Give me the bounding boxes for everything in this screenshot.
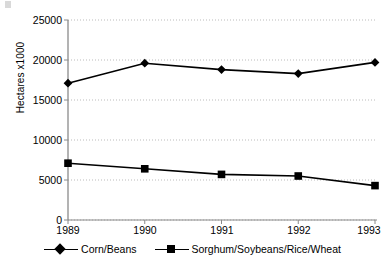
- legend-label: Corn/Beans: [81, 243, 136, 255]
- legend-item-sorghum-soybeans-rice-wheat[interactable]: Sorghum/Soybeans/Rice/Wheat: [155, 243, 341, 255]
- chart-legend: Corn/Beans Sorghum/Soybeans/Rice/Wheat: [0, 243, 385, 255]
- data-point-square: [141, 165, 149, 173]
- legend-item-corn-beans[interactable]: Corn/Beans: [44, 243, 136, 255]
- data-point-diamond: [217, 65, 226, 74]
- x-tick-label: 1991: [192, 224, 252, 236]
- data-point-diamond: [140, 59, 149, 68]
- data-point-diamond: [64, 79, 73, 88]
- line-chart: Hectares x1000 25000 20000 15000 10000 5…: [0, 0, 385, 262]
- x-tick-label: 1989: [38, 224, 98, 236]
- data-point-diamond: [294, 69, 303, 78]
- data-point-diamond: [371, 58, 380, 67]
- data-point-square: [294, 172, 302, 180]
- square-marker-icon: [155, 245, 189, 254]
- plot-area: [0, 0, 385, 262]
- x-tick-label: 1993: [339, 224, 385, 236]
- x-tick-label: 1992: [269, 224, 329, 236]
- data-point-square: [218, 171, 226, 179]
- legend-label: Sorghum/Soybeans/Rice/Wheat: [192, 243, 341, 255]
- data-point-square: [371, 182, 379, 190]
- diamond-marker-icon: [44, 245, 78, 254]
- x-tick-label: 1990: [115, 224, 175, 236]
- data-point-square: [64, 159, 72, 167]
